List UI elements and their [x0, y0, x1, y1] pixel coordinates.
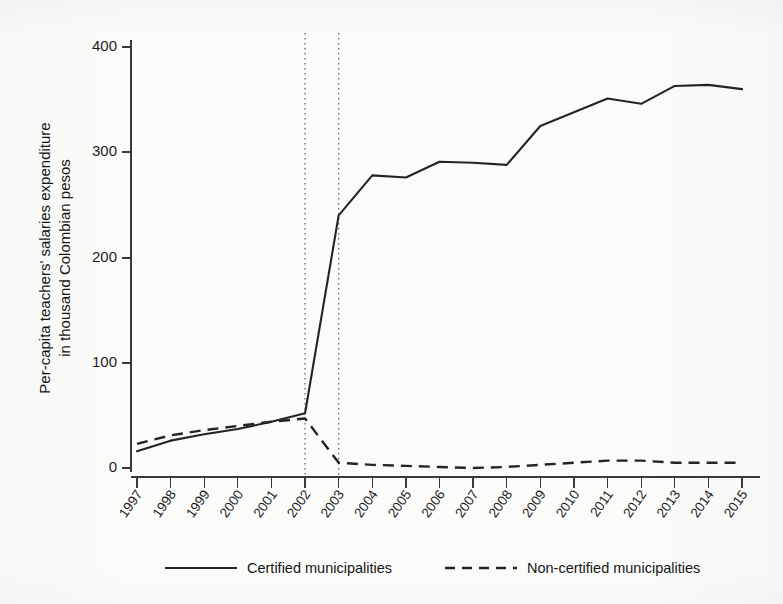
x-tick-label-2005: 2005: [385, 487, 415, 520]
x-tick-label-2002: 2002: [284, 487, 314, 520]
chart-legend: Certified municipalities Non-certified m…: [165, 560, 700, 576]
x-tick-label-1998: 1998: [150, 487, 180, 520]
x-tick-label-2015: 2015: [721, 487, 751, 520]
x-tick-label-1997: 1997: [116, 487, 146, 520]
x-tick-label-2006: 2006: [418, 487, 448, 520]
y-tick-label-200: 200: [92, 248, 117, 265]
x-tick-label-2008: 2008: [486, 487, 516, 520]
y-axis-title: Per-capita teachers' salaries expenditur…: [36, 122, 73, 393]
line-chart: Per-capita teachers' salaries expenditur…: [0, 0, 783, 604]
x-tick-label-2012: 2012: [620, 487, 650, 520]
x-tick-label-2007: 2007: [452, 487, 482, 520]
x-tick-label-2011: 2011: [587, 487, 616, 519]
x-tick-label-2014: 2014: [687, 487, 717, 521]
series-non-certified-municipalities: [137, 419, 742, 468]
series-certified-municipalities: [137, 85, 742, 451]
chart-figure: Per-capita teachers' salaries expenditur…: [0, 0, 783, 604]
y-axis-ticks: 400 300 200 100 0: [92, 37, 131, 475]
y-axis-title-line-1: Per-capita teachers' salaries expenditur…: [36, 122, 53, 393]
x-tick-label-2000: 2000: [217, 487, 247, 520]
y-tick-label-400: 400: [92, 37, 117, 54]
legend-label-non-certified: Non-certified municipalities: [527, 560, 700, 576]
y-tick-label-300: 300: [92, 142, 117, 159]
legend-label-certified: Certified municipalities: [247, 560, 392, 576]
x-tick-label-2001: 2001: [250, 487, 280, 520]
x-tick-label-2004: 2004: [351, 487, 381, 521]
y-axis-title-line-2: in thousand Colombian pesos: [56, 159, 73, 357]
x-tick-label-2003: 2003: [318, 487, 348, 520]
x-tick-label-2013: 2013: [654, 487, 684, 520]
y-tick-label-0: 0: [109, 458, 117, 475]
x-tick-label-2009: 2009: [519, 487, 549, 520]
x-axis-ticks: 1997199819992000200120022003200420052006…: [116, 477, 751, 520]
reference-lines: [305, 33, 339, 477]
x-tick-label-1999: 1999: [183, 487, 213, 520]
y-tick-label-100: 100: [92, 353, 117, 370]
x-tick-label-2010: 2010: [553, 487, 583, 520]
